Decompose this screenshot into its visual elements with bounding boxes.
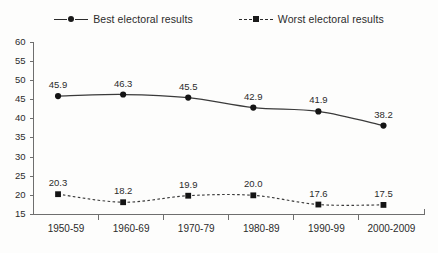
data-point-circle[interactable] bbox=[250, 104, 256, 110]
y-axis-tick-label: 50 bbox=[15, 74, 26, 85]
data-point-label: 45.5 bbox=[179, 81, 198, 92]
x-axis-tick-label: 2000-2009 bbox=[368, 223, 416, 234]
x-axis-tick-label: 1960-69 bbox=[113, 223, 150, 234]
data-point-circle[interactable] bbox=[120, 91, 126, 97]
y-axis-tick-label: 55 bbox=[15, 55, 26, 66]
x-axis-tick-label: 1990-99 bbox=[308, 223, 345, 234]
data-point-label: 17.5 bbox=[374, 188, 393, 199]
data-point-square[interactable] bbox=[315, 202, 321, 208]
data-point-label: 17.6 bbox=[309, 188, 328, 199]
data-point-label: 38.2 bbox=[374, 109, 393, 120]
data-point-square[interactable] bbox=[381, 202, 387, 208]
series-line-solid bbox=[58, 94, 383, 125]
data-point-square[interactable] bbox=[185, 193, 191, 199]
series-worst bbox=[55, 191, 386, 208]
y-axis-ticks: 15202530354045505560 bbox=[15, 36, 34, 220]
x-axis-tick-label: 1970-79 bbox=[178, 223, 215, 234]
x-axis-tick-label: 1980-89 bbox=[243, 223, 280, 234]
data-point-circle[interactable] bbox=[315, 108, 321, 114]
series-layer bbox=[55, 91, 387, 207]
y-axis-tick-label: 60 bbox=[15, 36, 26, 47]
data-point-circle[interactable] bbox=[185, 94, 191, 100]
data-labels-layer: 45.946.345.542.941.938.220.318.219.920.0… bbox=[49, 78, 393, 199]
y-axis-tick-label: 25 bbox=[15, 170, 26, 181]
data-point-circle[interactable] bbox=[380, 122, 386, 128]
y-axis-tick-label: 20 bbox=[15, 189, 26, 200]
data-point-label: 46.3 bbox=[114, 78, 133, 89]
data-point-label: 45.9 bbox=[49, 79, 68, 90]
y-axis: 15202530354045505560 bbox=[15, 36, 34, 220]
y-axis-tick-label: 30 bbox=[15, 151, 26, 162]
y-axis-tick-label: 35 bbox=[15, 131, 26, 142]
y-axis-tick-label: 15 bbox=[15, 208, 26, 219]
chart-container: Best electoral results Worst electoral r… bbox=[0, 0, 438, 253]
data-point-label: 20.3 bbox=[49, 177, 68, 188]
series-best bbox=[55, 91, 387, 128]
series-line-dashed bbox=[58, 194, 383, 205]
data-point-square[interactable] bbox=[55, 191, 61, 197]
y-axis-tick-label: 45 bbox=[15, 93, 26, 104]
data-point-label: 41.9 bbox=[309, 94, 328, 105]
x-axis-tick-label: 1950-59 bbox=[48, 223, 85, 234]
data-point-label: 20.0 bbox=[244, 178, 263, 189]
data-point-circle[interactable] bbox=[55, 93, 61, 99]
y-axis-tick-label: 40 bbox=[15, 112, 26, 123]
plot-area: 15202530354045505560 1950-591960-691970-… bbox=[0, 0, 438, 253]
x-axis: 1950-591960-691970-791980-891990-992000-… bbox=[34, 209, 425, 234]
x-axis-ticks bbox=[99, 215, 359, 220]
data-point-label: 42.9 bbox=[244, 91, 263, 102]
data-point-label: 19.9 bbox=[179, 179, 198, 190]
data-point-square[interactable] bbox=[120, 199, 126, 205]
data-point-square[interactable] bbox=[250, 192, 256, 198]
data-point-label: 18.2 bbox=[114, 185, 133, 196]
x-axis-tick-labels: 1950-591960-691970-791980-891990-992000-… bbox=[48, 223, 416, 234]
